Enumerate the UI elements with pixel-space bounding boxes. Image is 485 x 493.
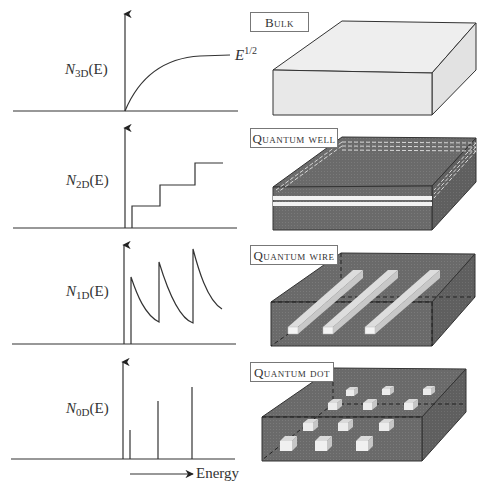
panel-quantum-dot: [11, 362, 466, 474]
ylabel-symbol: N: [65, 61, 75, 77]
ylabel-symbol: N: [66, 283, 76, 299]
ylabel-subscript: 1D: [76, 289, 89, 301]
ylabel-argument: (E): [89, 172, 108, 188]
dos-1d-spikes: [131, 249, 222, 344]
ylabel-argument: (E): [89, 400, 108, 416]
tag-quantum-well: Quantum well: [250, 128, 338, 148]
dos-curve-sqrt: [125, 55, 230, 111]
annotation-exponent: 1/2: [244, 45, 257, 56]
bulk-slab: [273, 21, 476, 115]
ylabel-n3d: N3D(E): [65, 61, 108, 79]
ylabel-subscript: 0D: [76, 406, 89, 418]
ylabel-symbol: N: [66, 172, 76, 188]
dos-delta-peaks: [130, 387, 192, 459]
xaxis-label-energy: Energy: [196, 465, 239, 482]
ylabel-subscript: 2D: [76, 178, 89, 190]
ylabel-n1d: N1D(E): [66, 283, 109, 301]
annotation-base: E: [235, 47, 244, 63]
ylabel-n2d: N2D(E): [66, 172, 109, 190]
ylabel-argument: (E): [89, 283, 108, 299]
tag-quantum-dot: Quantum dot: [250, 362, 334, 382]
ylabel-n0d: N0D(E): [66, 400, 109, 418]
ylabel-subscript: 3D: [75, 67, 88, 79]
curve-annotation-e-half: E1/2: [235, 45, 257, 64]
tag-bulk: Bulk: [250, 12, 309, 32]
dos-staircase: [132, 163, 223, 228]
ylabel-argument: (E): [88, 61, 107, 77]
quantum-wire-slab: [271, 253, 475, 346]
quantum-well-slab: [273, 137, 476, 230]
tag-quantum-wire: Quantum wire: [250, 245, 338, 265]
ylabel-symbol: N: [66, 400, 76, 416]
